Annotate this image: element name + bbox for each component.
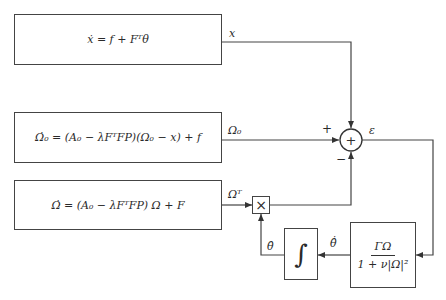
- signal-label-theta-hat: θ̂: [267, 240, 274, 253]
- filter-block: Ω̇ = (A₀ − λFᵀFP) Ω + F: [14, 180, 222, 230]
- plus-sign: +: [322, 122, 332, 136]
- signal-label-theta-hat-dot: θ̂̇: [330, 237, 337, 250]
- gain-numerator: ΓΩ: [371, 240, 396, 256]
- signal-label-x: x: [229, 27, 235, 40]
- gain-block: ΓΩ 1 + ν|Ω|²: [350, 222, 416, 288]
- multiply-icon: ×: [255, 197, 267, 213]
- signal-label-epsilon: ε: [369, 124, 375, 137]
- filter-equation: Ω̇ = (A₀ − λFᵀFP) Ω + F: [51, 199, 184, 212]
- multiplier-block: ×: [252, 196, 270, 214]
- plant-block: ẋ = f + Fᵀθ: [14, 14, 222, 65]
- observer-block: Ω̇₀ = (A₀ − λFᵀFP)(Ω₀ − x) + f: [14, 112, 222, 163]
- signal-label-omegaT: Ωᵀ: [228, 188, 242, 201]
- gain-denominator: 1 + ν|Ω|²: [358, 256, 409, 271]
- summer-plus-icon: +: [346, 133, 357, 148]
- signal-label-omega0: Ω₀: [228, 124, 242, 137]
- plant-equation: ẋ = f + Fᵀθ: [87, 33, 149, 46]
- minus-sign: −: [336, 152, 346, 166]
- x-wire: [222, 42, 351, 128]
- integral-icon: ∫: [294, 239, 308, 269]
- gain-fraction: ΓΩ 1 + ν|Ω|²: [358, 240, 409, 271]
- observer-equation: Ω̇₀ = (A₀ − λFᵀFP)(Ω₀ − x) + f: [35, 131, 201, 144]
- integrator-block: ∫: [284, 228, 318, 280]
